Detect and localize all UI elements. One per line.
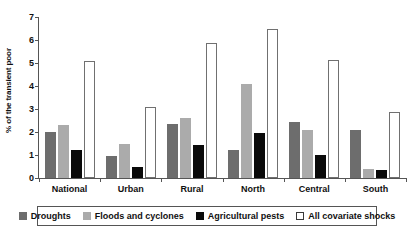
bar-group <box>161 17 222 178</box>
x-axis-tick-mark <box>161 178 162 182</box>
bar <box>302 130 313 178</box>
bar <box>84 61 95 178</box>
y-axis-title: % of the transient poor <box>0 0 16 180</box>
y-axis-tick-label: 3 <box>29 105 34 114</box>
bar-group <box>223 17 284 178</box>
x-axis-label: Urban <box>100 184 161 194</box>
y-axis-tick-label: 7 <box>29 13 34 22</box>
bar <box>180 118 191 178</box>
y-axis-tick-label: 6 <box>29 36 34 45</box>
bar <box>106 156 117 178</box>
bar <box>254 133 265 178</box>
x-axis-label: Central <box>284 184 345 194</box>
bar <box>45 132 56 178</box>
legend-swatch-icon <box>83 212 91 220</box>
bar <box>241 84 252 178</box>
x-axis-label: National <box>39 184 100 194</box>
x-axis-tick-mark <box>406 178 407 182</box>
x-axis-tick-mark <box>284 178 285 182</box>
bar <box>58 125 69 178</box>
bar-chart: % of the transient poor 01234567 Nationa… <box>0 0 413 234</box>
x-axis-labels: NationalUrbanRuralNorthCentralSouth <box>39 184 406 194</box>
bar-group <box>39 17 100 178</box>
bar <box>145 107 156 178</box>
bar <box>228 150 239 178</box>
legend-entry: Floods and cyclones <box>83 211 184 221</box>
legend-swatch-icon <box>196 212 204 220</box>
legend-label: Droughts <box>31 211 71 221</box>
x-axis-tick-mark <box>39 178 40 182</box>
x-axis-tick-mark <box>345 178 346 182</box>
bar <box>206 43 217 178</box>
bar <box>376 170 387 178</box>
legend-entry: Droughts <box>19 211 71 221</box>
y-axis-tick-label: 4 <box>29 82 34 91</box>
legend-entry: All covariate shocks <box>296 211 395 221</box>
x-axis-tick-mark <box>100 178 101 182</box>
bar <box>389 112 400 178</box>
legend-swatch-icon <box>296 212 304 220</box>
bar <box>193 145 204 178</box>
plot-area: 01234567 <box>38 17 406 178</box>
bar-group <box>284 17 345 178</box>
bar <box>71 150 82 178</box>
bar <box>119 144 130 179</box>
x-axis-label: South <box>345 184 406 194</box>
x-axis-tick-mark <box>223 178 224 182</box>
bar <box>363 169 374 178</box>
bar <box>350 130 361 178</box>
bar <box>267 29 278 179</box>
y-axis-tick-label: 1 <box>29 151 34 160</box>
bar-group <box>100 17 161 178</box>
y-axis-tick-label: 5 <box>29 59 34 68</box>
bar <box>328 60 339 178</box>
legend-label: All covariate shocks <box>308 211 395 221</box>
legend-entry: Agricultural pests <box>196 211 285 221</box>
y-axis-tick-label: 0 <box>29 174 34 183</box>
legend-label: Agricultural pests <box>208 211 285 221</box>
bar <box>289 122 300 178</box>
bar <box>132 167 143 179</box>
x-axis-label: North <box>223 184 284 194</box>
x-axis-label: Rural <box>161 184 222 194</box>
legend-label: Floods and cyclones <box>95 211 184 221</box>
chart-legend: DroughtsFloods and cyclonesAgricultural … <box>37 206 377 226</box>
legend-swatch-icon <box>19 212 27 220</box>
bar <box>167 124 178 178</box>
bar-groups <box>39 17 406 178</box>
bar <box>315 155 326 178</box>
y-axis-title-text: % of the transient poor <box>4 48 13 133</box>
bar-group <box>345 17 406 178</box>
y-axis-tick-label: 2 <box>29 128 34 137</box>
